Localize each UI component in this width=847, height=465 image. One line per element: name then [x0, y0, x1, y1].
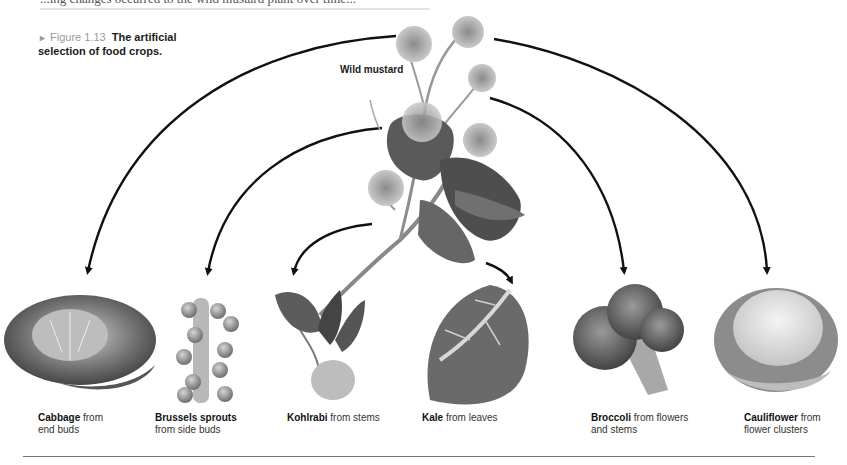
broccoli-image	[573, 284, 684, 395]
crop-label-brussels-sprouts: Brussels sprouts from side buds	[155, 412, 237, 436]
crop-desc: from flowers	[631, 412, 688, 423]
crop-desc: from	[80, 412, 103, 423]
crop-desc: from stems	[328, 412, 380, 423]
crop-name: Cauliflower	[744, 412, 798, 423]
cabbage-image	[4, 295, 156, 389]
crop-desc-line2: flower clusters	[744, 424, 808, 435]
crop-desc: from leaves	[443, 412, 497, 423]
kohlrabi-image	[275, 290, 365, 400]
arrow-to-brussels-sprouts	[208, 128, 382, 272]
wild-mustard-image	[320, 16, 525, 315]
crop-label-cauliflower: Cauliflower from flower clusters	[744, 412, 821, 436]
crop-desc-line2: end buds	[38, 424, 79, 435]
crop-name: Kohlrabi	[287, 412, 328, 423]
crop-name: Cabbage	[38, 412, 80, 423]
brussels-sprouts-image	[176, 298, 239, 403]
crop-name: Broccoli	[591, 412, 631, 423]
crop-desc: from	[798, 412, 821, 423]
arrow-to-cabbage	[88, 36, 396, 271]
crop-label-kohlrabi: Kohlrabi from stems	[287, 412, 380, 424]
arrow-to-kale	[486, 263, 511, 281]
arrow-to-kohlrabi	[294, 224, 372, 272]
crop-desc-line2: and stems	[591, 424, 637, 435]
cauliflower-image	[714, 288, 838, 392]
page-divider	[23, 456, 815, 457]
crop-label-broccoli: Broccoli from flowers and stems	[591, 412, 688, 436]
crop-name: Kale	[422, 412, 443, 423]
crop-desc-line2: from side buds	[155, 424, 221, 435]
arrow-to-cauliflower	[494, 39, 767, 271]
arrow-to-broccoli	[490, 98, 624, 271]
crop-label-cabbage: Cabbage from end buds	[38, 412, 103, 436]
crop-label-kale: Kale from leaves	[422, 412, 498, 424]
figure-artwork	[0, 0, 847, 465]
kale-image	[428, 285, 529, 405]
crop-name: Brussels sprouts	[155, 412, 237, 423]
